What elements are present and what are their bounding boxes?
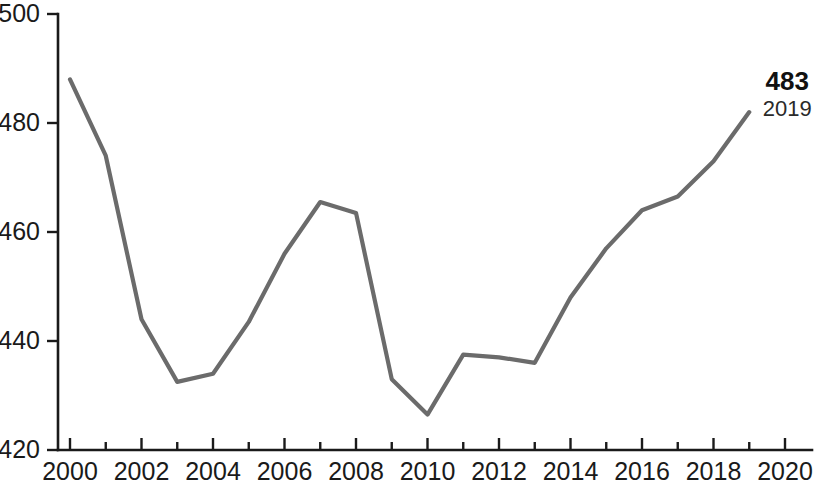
annotation-group: 4832019 — [763, 66, 812, 121]
y-tick-label: 500 — [0, 0, 40, 27]
x-tick-label: 2014 — [543, 457, 599, 485]
x-tick-label: 2006 — [257, 457, 313, 485]
data-series-group — [70, 79, 749, 414]
x-tick-label: 2002 — [114, 457, 170, 485]
x-tick-label: 2010 — [400, 457, 456, 485]
x-tick-label: 2020 — [757, 457, 813, 485]
y-tick-label: 460 — [0, 217, 40, 245]
y-tick-label: 480 — [0, 108, 40, 136]
x-tick-label: 2008 — [328, 457, 384, 485]
line-chart: 420440460480500 200020022004200620082010… — [0, 0, 816, 498]
endpoint-year-label: 2019 — [763, 96, 812, 121]
data-line-1 — [70, 79, 749, 414]
x-tick-label: 2012 — [471, 457, 527, 485]
y-axis: 420440460480500 — [0, 0, 58, 463]
x-tick-label: 2000 — [42, 457, 98, 485]
x-axis: 2000200220042006200820102012201420162018… — [42, 438, 813, 485]
x-tick-label: 2016 — [614, 457, 670, 485]
y-tick-label: 440 — [0, 326, 40, 354]
chart-canvas: 420440460480500 200020022004200620082010… — [0, 0, 816, 498]
x-tick-label: 2004 — [185, 457, 241, 485]
endpoint-value-label: 483 — [766, 66, 809, 96]
x-tick-label: 2018 — [686, 457, 742, 485]
y-tick-label: 420 — [0, 435, 40, 463]
